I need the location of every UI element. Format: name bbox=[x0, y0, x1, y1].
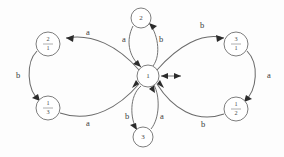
edge-path bbox=[29, 51, 40, 101]
edge-label-center-to-top-left: a bbox=[86, 27, 90, 37]
edge-path bbox=[157, 37, 224, 70]
node-bottom-left-numerator: 1 bbox=[46, 99, 49, 106]
node-bottom[interactable]: 3 bbox=[133, 127, 153, 147]
edge-label-bottom-to-center: a bbox=[160, 111, 164, 121]
node-center[interactable]: 1 bbox=[137, 65, 159, 87]
edge-label-top-to-center: a bbox=[122, 34, 126, 44]
arrowhead-icon bbox=[66, 35, 74, 42]
edge-center-to-top-b bbox=[149, 23, 158, 66]
arrowhead-icon bbox=[149, 23, 157, 30]
edge-bottom-right-to-center bbox=[157, 80, 224, 117]
node-bottom-left[interactable]: 1 3 bbox=[36, 96, 60, 120]
node-top[interactable]: 2 bbox=[131, 8, 151, 28]
edge-center-to-top-right bbox=[157, 35, 224, 70]
edge-path bbox=[157, 84, 224, 117]
graph-canvas: 1 2 3 2 1 1 3 3 bbox=[0, 0, 284, 157]
edge-label-top-left-to-bottom-left: b bbox=[16, 70, 20, 80]
edge-label-center-to-top: b bbox=[159, 34, 163, 44]
node-center-label: 1 bbox=[146, 72, 150, 80]
node-top-left-numerator: 2 bbox=[46, 35, 49, 42]
edge-top-right-to-bottom-right bbox=[244, 51, 255, 102]
edge-center-to-bottom-b bbox=[130, 86, 141, 130]
edge-label-center-to-bottom: b bbox=[125, 111, 129, 121]
node-top-left[interactable]: 2 1 bbox=[36, 32, 60, 56]
node-bottom-right-denominator: 2 bbox=[234, 109, 237, 116]
arrowhead-icon bbox=[216, 35, 224, 42]
edge-path bbox=[66, 37, 139, 70]
node-bottom-left-denominator: 3 bbox=[46, 108, 49, 115]
node-top-right-denominator: 1 bbox=[234, 44, 237, 51]
edge-center-to-top-left bbox=[66, 35, 139, 70]
arrowhead-left-icon bbox=[161, 73, 168, 79]
node-top-right-numerator: 3 bbox=[234, 35, 237, 42]
arrowhead-icon bbox=[130, 123, 137, 130]
arrowhead-icon bbox=[133, 60, 141, 67]
edge-label-bottom-left-to-center: a bbox=[86, 118, 90, 128]
edge-label-top-right-to-bottom-right: a bbox=[267, 70, 271, 80]
edge-top-left-to-bottom-left bbox=[29, 51, 40, 101]
node-bottom-right[interactable]: 1 2 bbox=[224, 97, 248, 121]
edge-path bbox=[149, 23, 158, 66]
node-bottom-right-numerator: 1 bbox=[234, 100, 237, 107]
edge-bottom-to-center-a bbox=[149, 85, 158, 129]
node-bottom-label: 3 bbox=[141, 133, 145, 141]
node-top-label: 2 bbox=[139, 14, 143, 22]
state-transition-diagram: 1 2 3 2 1 1 3 3 bbox=[0, 0, 284, 157]
edge-path bbox=[244, 51, 255, 102]
node-top-right[interactable]: 3 1 bbox=[224, 32, 248, 56]
arrowhead-right-icon bbox=[174, 73, 181, 79]
edge-label-center-to-top-right: b bbox=[200, 20, 204, 30]
edge-path bbox=[132, 86, 141, 130]
node-top-left-denominator: 1 bbox=[46, 44, 49, 51]
center-double-arrow-marker bbox=[161, 73, 181, 79]
edge-label-bottom-right-to-center: b bbox=[201, 119, 205, 129]
